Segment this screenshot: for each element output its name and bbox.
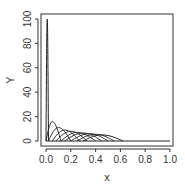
chart: 0.00.20.40.60.81.0 020406080100 x Y [0,0,185,185]
x-tick-label: 0.2 [64,154,78,165]
y-tick-label: 60 [22,62,33,74]
x-axis-label: x [104,171,110,183]
y-axis-label: Y [4,76,16,84]
y-tick-label: 40 [22,86,33,98]
series-line [46,19,48,141]
y-tick-label: 20 [22,111,33,123]
x-tick-label: 0.8 [138,154,152,165]
x-tick-label: 0.4 [89,154,103,165]
x-tick-label: 1.0 [163,154,177,165]
plot-frame [41,14,173,146]
x-axis: 0.00.20.40.60.81.0 [39,149,177,165]
x-tick-label: 0.0 [39,154,53,165]
y-axis: 020406080100 [22,10,38,144]
plot-area [46,19,170,141]
y-tick-label: 80 [22,37,33,49]
y-tick-label: 0 [22,138,33,144]
x-tick-label: 0.6 [113,154,127,165]
y-tick-label: 100 [22,10,33,27]
